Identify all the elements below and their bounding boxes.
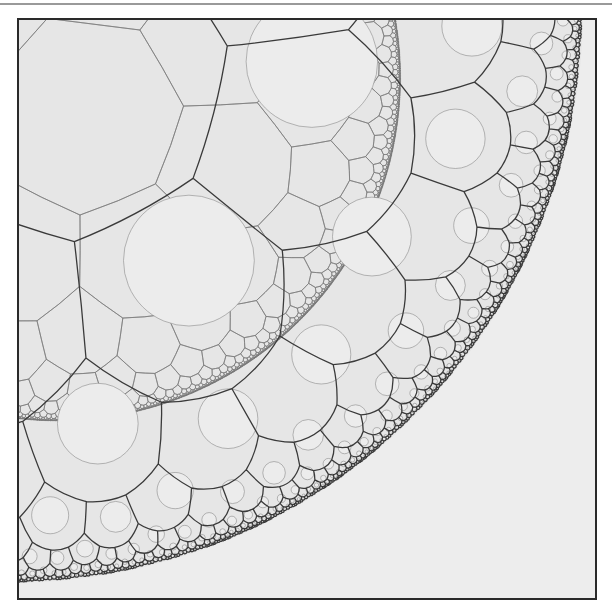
top-rule	[0, 3, 612, 5]
figure-frame	[17, 18, 597, 600]
hyperbolic-tiling	[19, 20, 595, 598]
